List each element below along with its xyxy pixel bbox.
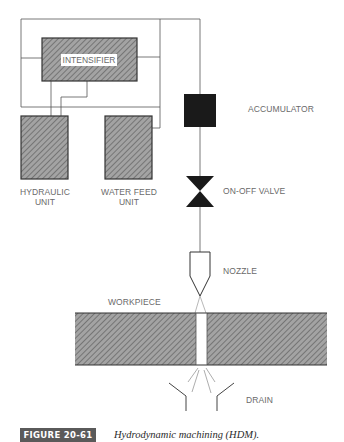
workpiece-block [75,313,327,365]
accumulator-block [184,94,216,127]
nozzle-symbol [190,252,210,296]
hdm-diagram [0,0,344,442]
on-off-valve-label: ON-OFF VALVE [223,186,285,196]
spray-lines [188,368,215,393]
figure-label: FIGURE 20-61 [20,428,96,442]
water-feed-unit-block [105,116,152,179]
accumulator-label: ACCUMULATOR [248,104,314,114]
figure-caption: Hydrodynamic machining (HDM). [114,428,259,442]
water-feed-unit-label: WATER FEED UNIT [90,187,168,207]
workpiece-label: WORKPIECE [108,297,161,307]
drain-symbol [169,383,234,411]
on-off-valve-symbol [186,176,214,207]
intensifier-label: INTENSIFIER [61,54,117,66]
drain-label: DRAIN [246,395,273,405]
hydraulic-unit-block [21,116,68,179]
nozzle-label: NOZZLE [223,266,257,276]
hydraulic-unit-label: HYDRAULIC UNIT [6,187,84,207]
